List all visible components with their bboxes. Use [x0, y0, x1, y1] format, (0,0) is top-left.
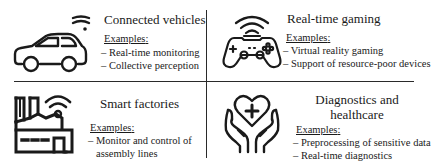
heart-hands-icon [220, 90, 284, 156]
examples-list: – Preprocessing of sensitive data – Real… [293, 137, 431, 162]
examples-label: Examples: [286, 32, 330, 44]
example-item: – Virtual reality gaming [283, 45, 431, 58]
examples-label: Examples: [296, 124, 340, 136]
example-item: – Real-time diagnostics [293, 150, 431, 163]
factory-wifi-icon [12, 92, 82, 154]
example-item: – Real-time monitoring [101, 47, 200, 60]
title-line-1: Diagnostics and [302, 92, 412, 107]
example-item: – Preprocessing of sensitive data [293, 137, 431, 150]
example-item: – Monitor and control of [88, 135, 192, 148]
title-line-2: healthcare [302, 107, 412, 122]
quadrant-title: Connected vehicles [104, 12, 205, 27]
examples-list: – Monitor and control of assembly lines [88, 135, 192, 160]
quadrant-title: Smart factories [100, 96, 179, 111]
car-wifi-icon [12, 12, 92, 74]
gamepad-wifi-icon [222, 10, 282, 70]
examples-label: Examples: [90, 122, 134, 134]
examples-list: – Virtual reality gaming – Support of re… [283, 45, 431, 70]
examples-list: – Real-time monitoring – Collective perc… [101, 47, 200, 72]
example-item: – Support of resource-poor devices [283, 58, 431, 71]
quadrant-title: Real-time gaming [287, 11, 381, 26]
example-item: – Collective perception [101, 60, 200, 73]
horizontal-divider [14, 81, 414, 82]
vertical-divider [206, 10, 207, 158]
examples-label: Examples: [104, 33, 148, 45]
quadrant-title: Diagnostics and healthcare [302, 92, 412, 122]
example-item: assembly lines [88, 148, 192, 161]
